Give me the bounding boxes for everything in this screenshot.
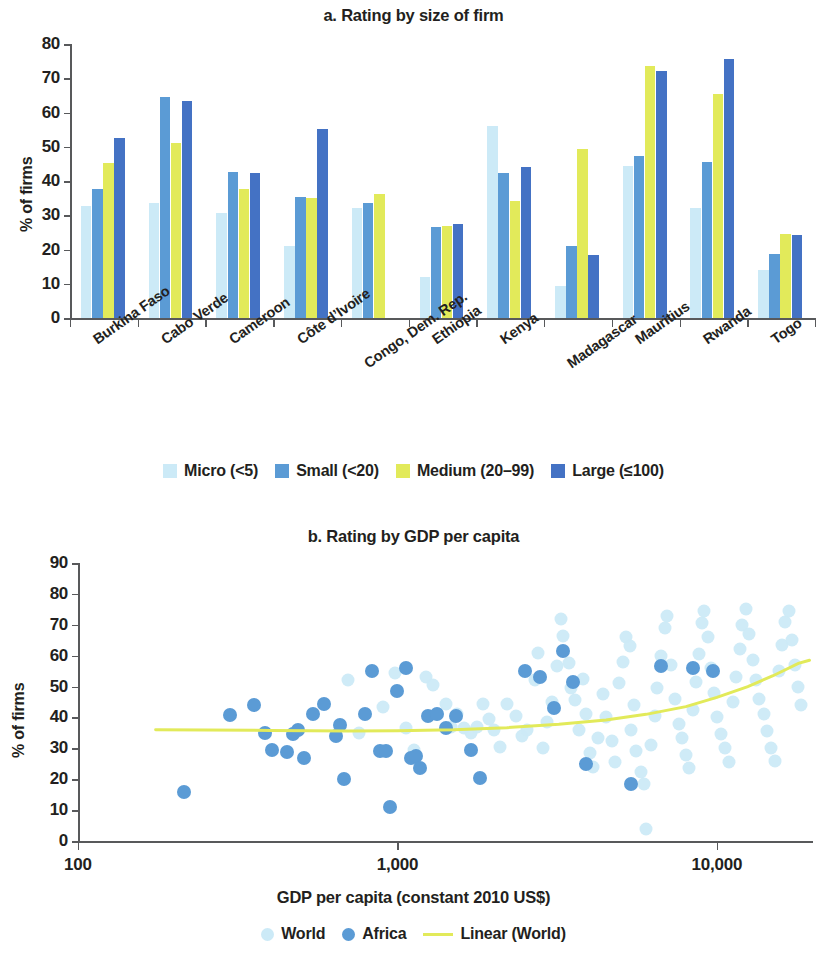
y-tick-label: 80 (28, 35, 60, 52)
legend-label: Small (<20) (296, 462, 379, 480)
bar-large-100 (588, 255, 599, 318)
bar-medium-20-99 (510, 201, 521, 318)
x-tick-label: 100 (33, 855, 123, 875)
bar-large-100 (114, 138, 125, 318)
y-tick-label: 30 (28, 206, 60, 223)
y-tick-label: 40 (30, 708, 68, 725)
bar-group (476, 44, 544, 318)
y-tick-label: 30 (30, 739, 68, 756)
bar-micro-5 (81, 206, 92, 318)
x-tick-mark (397, 841, 398, 850)
y-tick-label: 60 (30, 647, 68, 664)
panel-rating-by-gdp-per-capita: b. Rating by GDP per capita % of firms 9… (0, 505, 827, 957)
line-marker-icon (423, 933, 453, 936)
legend-label: Linear (World) (460, 925, 565, 943)
bar-large-100 (792, 235, 803, 318)
bar-micro-5 (758, 270, 769, 318)
y-tick-label: 20 (30, 770, 68, 787)
legend-item: Small (<20) (275, 462, 379, 480)
bar-micro-5 (555, 286, 566, 318)
bar-medium-20-99 (171, 143, 182, 318)
legend-label: Large (≤100) (572, 462, 664, 480)
square-swatch-icon (396, 464, 410, 478)
bar-medium-20-99 (239, 189, 250, 318)
legend-item: Micro (<5) (163, 462, 258, 480)
legend-label: World (281, 925, 325, 943)
bar-large-100 (656, 71, 667, 318)
bar-medium-20-99 (713, 94, 724, 318)
panel-b-legend: WorldAfricaLinear (World) (0, 925, 827, 943)
y-tick-label: 50 (28, 138, 60, 155)
bar-medium-20-99 (374, 194, 385, 318)
panel-a-title: a. Rating by size of firm (0, 6, 827, 25)
x-category-label: Togo (768, 315, 805, 347)
legend-item: Medium (20–99) (396, 462, 534, 480)
bar-small-20 (702, 162, 713, 318)
bar-large-100 (317, 129, 328, 318)
legend-label: Africa (362, 925, 406, 943)
x-group-tick (544, 318, 545, 327)
x-group-tick (70, 318, 71, 327)
square-swatch-icon (275, 464, 289, 478)
bar-group (70, 44, 138, 318)
x-tick-mark (717, 841, 718, 850)
bar-large-100 (724, 59, 735, 318)
y-tick-label: 60 (28, 104, 60, 121)
bar-group (409, 44, 477, 318)
bar-small-20 (566, 246, 577, 318)
y-tick-label: 70 (30, 616, 68, 633)
trend-line-world (78, 563, 813, 841)
y-tick-label: 0 (28, 309, 60, 326)
bar-small-20 (498, 173, 509, 318)
y-tick-label: 90 (30, 554, 68, 571)
panel-rating-by-size-of-firm: a. Rating by size of firm % of firms 807… (0, 0, 827, 500)
y-tick-label: 10 (28, 275, 60, 292)
legend-label: Micro (<5) (184, 462, 258, 480)
panel-b-title: b. Rating by GDP per capita (0, 527, 827, 546)
bar-large-100 (250, 173, 261, 318)
bar-group (680, 44, 748, 318)
bar-small-20 (228, 172, 239, 318)
bar-large-100 (182, 101, 193, 318)
y-tick-label: 70 (28, 69, 60, 86)
panel-a-plot-area (70, 44, 815, 318)
legend-item: Large (≤100) (551, 462, 664, 480)
bar-group (273, 44, 341, 318)
y-tick-label: 20 (28, 241, 60, 258)
x-tick-mark (78, 841, 79, 850)
x-tick-label: 1,000 (352, 855, 442, 875)
bar-group (341, 44, 409, 318)
y-tick-label: 10 (30, 801, 68, 818)
y-tick-label: 80 (30, 585, 68, 602)
bar-group (747, 44, 815, 318)
square-swatch-icon (551, 464, 565, 478)
square-swatch-icon (163, 464, 177, 478)
panel-b-y-axis-label: % of firms (10, 683, 28, 758)
x-axis-line (78, 841, 813, 843)
bar-medium-20-99 (577, 149, 588, 318)
x-tick-label: 10,000 (672, 855, 762, 875)
bar-micro-5 (623, 166, 634, 318)
circle-marker-icon (342, 928, 355, 941)
bar-group (205, 44, 273, 318)
bar-medium-20-99 (780, 234, 791, 318)
legend-label: Medium (20–99) (417, 462, 534, 480)
bar-small-20 (92, 189, 103, 318)
bar-group (544, 44, 612, 318)
x-group-tick (815, 318, 816, 327)
bar-group (612, 44, 680, 318)
bar-large-100 (521, 167, 532, 318)
bar-small-20 (769, 254, 780, 318)
y-tick-label: 40 (28, 172, 60, 189)
bar-medium-20-99 (103, 163, 114, 318)
panel-b-x-axis-title: GDP per capita (constant 2010 US$) (0, 888, 827, 907)
bar-group (138, 44, 206, 318)
panel-a-legend: Micro (<5)Small (<20)Medium (20–99)Large… (0, 462, 827, 480)
circle-marker-icon (261, 928, 274, 941)
bar-micro-5 (690, 208, 701, 318)
bar-small-20 (295, 197, 306, 318)
x-category-label: Madagascar (564, 311, 640, 371)
y-tick-label: 0 (30, 832, 68, 849)
legend-item: Africa (342, 925, 406, 943)
panel-b-plot-area (78, 563, 813, 841)
